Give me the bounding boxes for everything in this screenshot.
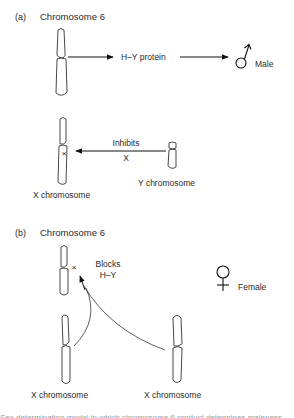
blocks-hy-label: H–Y	[100, 270, 117, 280]
male-label: Male	[255, 59, 273, 69]
x-chromosome-b-left	[62, 315, 70, 384]
figure-caption-cutoff: Sex determination model in which chromos…	[0, 411, 294, 418]
diagram-canvas: × ×	[0, 0, 294, 418]
y-chromosome	[168, 142, 176, 168]
chromosome-6-a	[56, 29, 67, 96]
inhibits-gene-label: X	[123, 153, 129, 163]
chromosome-6-b	[60, 246, 68, 296]
x-chromosome-b-right	[173, 316, 182, 383]
curve-from-right-x	[84, 286, 165, 350]
panel-a-title: Chromosome 6	[40, 12, 105, 22]
x-mark-b: ×	[72, 263, 77, 272]
y-chromosome-label: Y chromosome	[138, 178, 195, 188]
inhibits-label: Inhibits	[113, 138, 140, 148]
x-chromosome-b-right-label: X chromosome	[144, 390, 201, 400]
male-symbol-icon	[236, 45, 251, 69]
hy-protein-label: H–Y protein	[121, 52, 166, 62]
panel-b-label: (b)	[15, 228, 26, 238]
blocks-label: Blocks	[95, 259, 120, 269]
female-label: Female	[238, 282, 266, 292]
x-mark-a: ×	[62, 149, 67, 158]
x-chromosome-a-label: X chromosome	[33, 190, 90, 200]
female-symbol-icon	[217, 266, 229, 291]
curve-from-left-x	[74, 288, 91, 346]
x-chromosome-b-left-label: X chromosome	[31, 390, 88, 400]
arrow-blocks	[80, 276, 85, 290]
panel-a-label: (a)	[15, 12, 26, 22]
panel-b-title: Chromosome 6	[40, 228, 105, 238]
